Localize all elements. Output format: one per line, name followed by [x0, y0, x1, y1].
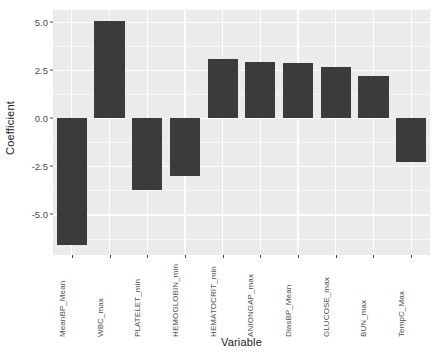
x-tick-label-text: GLUCOSE_max: [322, 277, 331, 337]
bar-ANIONGAP_max: [245, 62, 275, 118]
x-axis-tick-label-group: MeanBP_MeanWBC_maxPLATELET_minHEMOGLOBIN…: [53, 259, 430, 337]
gridline-major-vertical: [373, 10, 374, 255]
gridline-major-vertical: [297, 10, 298, 255]
y-tick-label: -5.0: [32, 209, 48, 220]
x-tick-mark: [373, 255, 374, 258]
bar-TempC_Max: [396, 118, 426, 162]
bar-PLATELET_min: [132, 118, 162, 190]
x-tick-label-text: HEMOGLOBIN_min: [171, 264, 180, 337]
bar-GLUCOSE_max: [321, 67, 351, 118]
x-axis-title: Variable: [53, 336, 430, 348]
x-tick-label-text: ANIONGAP_max: [246, 274, 255, 337]
x-tick-label: TempC_Max: [406, 259, 444, 337]
x-tick-label-text: WBC_max: [96, 298, 105, 337]
x-tick-mark: [72, 255, 73, 258]
x-tick-label-text: MeanBP_Mean: [58, 281, 67, 337]
bar-chart: Coefficient 5.02.50.0-2.5-5.0 MeanBP_Mea…: [0, 0, 444, 357]
gridline-major-vertical: [335, 10, 336, 255]
x-tick-mark: [185, 255, 186, 258]
gridline-major-vertical: [222, 10, 223, 255]
bar-WBC_max: [94, 21, 124, 118]
y-tick-label: 5.0: [35, 16, 48, 27]
y-axis-title: Coefficient: [2, 0, 18, 255]
x-tick-label-text: TempC_Max: [397, 291, 406, 337]
y-tick-label: -2.5: [32, 161, 48, 172]
bar-MeanBP_Mean: [57, 118, 87, 245]
plot-panel: [53, 10, 430, 255]
x-tick-mark: [336, 255, 337, 258]
x-tick-mark: [298, 255, 299, 258]
x-tick-mark: [110, 255, 111, 258]
x-tick-mark: [411, 255, 412, 258]
bar-HEMATOCRIT_min: [208, 59, 238, 118]
x-tick-mark: [260, 255, 261, 258]
x-tick-label-text: PLATELET_min: [133, 279, 142, 337]
bar-BUN_max: [358, 76, 388, 118]
y-tick-label: 0.0: [35, 113, 48, 124]
x-tick-mark: [147, 255, 148, 258]
y-axis-tick-group: 5.02.50.0-2.5-5.0: [18, 10, 53, 255]
x-tick-label-text: HEMATOCRIT_min: [209, 266, 218, 337]
x-tick-label-text: BUN_max: [359, 300, 368, 337]
x-tick-label-text: DiasBP_Mean: [284, 285, 293, 337]
y-axis-title-text: Coefficient: [4, 101, 16, 155]
y-tick-label: 2.5: [35, 64, 48, 75]
bar-DiasBP_Mean: [283, 63, 313, 118]
gridline-major-vertical: [260, 10, 261, 255]
bar-HEMOGLOBIN_min: [170, 118, 200, 176]
x-tick-mark: [223, 255, 224, 258]
